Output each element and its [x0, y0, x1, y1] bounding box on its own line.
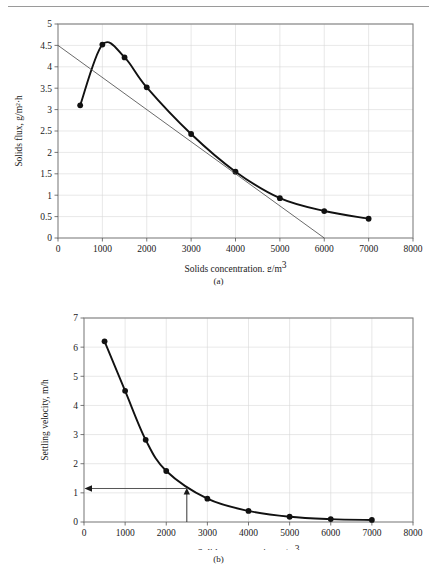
data-point-marker [204, 496, 210, 502]
y-tick-label: 3 [47, 105, 52, 115]
data-point-marker [99, 42, 105, 48]
y-tick-label: 4 [73, 401, 78, 411]
data-point-marker [102, 338, 108, 344]
y-tick-label: 0 [73, 517, 78, 527]
y-tick-label: 1.5 [40, 169, 52, 179]
x-tick-label: 3000 [182, 244, 201, 254]
figure-a-caption: (a) [0, 276, 437, 286]
x-tick-label: 2000 [157, 528, 176, 538]
data-point-marker [321, 208, 327, 214]
figure-b-caption: (b) [0, 554, 437, 564]
series-0 [77, 42, 371, 222]
y-axis: 00.511.522.533.544.55 [40, 19, 58, 243]
page-header-rule [8, 6, 429, 7]
y-tick-label: 1 [73, 488, 78, 498]
y-tick-label: 4 [47, 62, 52, 72]
data-point-marker [122, 54, 128, 60]
x-axis: 010002000300040005000600070008000 [82, 522, 423, 538]
y-tick-label: 3.5 [40, 84, 52, 94]
y-tick-label: 6 [73, 343, 78, 353]
x-tick-label: 7000 [359, 244, 378, 254]
data-point-marker [122, 388, 128, 394]
x-tick-label: 8000 [404, 528, 423, 538]
x-tick-label: 5000 [280, 528, 299, 538]
x-tick-label: 5000 [270, 244, 289, 254]
y-tick-label: 3 [73, 430, 78, 440]
x-tick-label: 3000 [198, 528, 217, 538]
grid-lines [58, 24, 413, 238]
x-tick-label: 1000 [116, 528, 135, 538]
x-tick-label: 7000 [362, 528, 381, 538]
figure-page: 00.511.522.533.544.550100020003000400050… [0, 0, 437, 577]
data-point-marker [143, 437, 149, 443]
x-tick-label: 0 [56, 244, 61, 254]
x-axis: 010002000300040005000600070008000 [56, 238, 423, 254]
data-point-marker [77, 102, 83, 108]
x-tick-label: 1000 [93, 244, 112, 254]
y-tick-label: 4.5 [40, 41, 52, 51]
y-tick-label: 1 [47, 191, 52, 201]
figure-a: 00.511.522.533.544.550100020003000400050… [0, 14, 437, 286]
y-tick-label: 2.5 [40, 126, 52, 136]
data-point-marker [366, 216, 372, 222]
x-axis-title-text: Solids concentration, g/m3 [197, 544, 299, 550]
y-tick-label: 2 [47, 148, 52, 158]
x-tick-label: 4000 [239, 528, 258, 538]
annotation-group [85, 485, 191, 522]
data-point-marker [287, 514, 293, 520]
y-tick-label: 5 [47, 19, 52, 29]
figure-b: 0123456701000200030004000500060007000800… [0, 300, 437, 572]
x-tick-label: 6000 [321, 528, 340, 538]
data-curve [105, 341, 372, 520]
y-tick-label: 0 [47, 233, 52, 243]
x-axis-title: Solids concentration, g/m3 [197, 544, 299, 550]
y-tick-label: 5 [73, 372, 78, 382]
x-tick-label: 4000 [226, 244, 245, 254]
series-0 [102, 338, 375, 522]
x-tick-label: 6000 [315, 244, 334, 254]
y-tick-label: 7 [73, 313, 78, 323]
data-point-marker [369, 517, 375, 523]
x-tick-label: 8000 [404, 244, 423, 254]
data-point-marker [163, 468, 169, 474]
y-axis-title-text: Settling velocity, m/h [40, 379, 50, 461]
y-axis: 01234567 [73, 313, 84, 527]
x-axis-title: Solids concentration, g/m3 [184, 260, 286, 272]
y-axis-title-text: Solids flux, g/m²·h [14, 95, 24, 167]
solids-flux-chart: 00.511.522.533.544.550100020003000400050… [0, 14, 437, 272]
y-tick-label: 2 [73, 459, 78, 469]
data-point-marker [246, 508, 252, 514]
data-point-marker [277, 195, 283, 201]
y-axis-title: Solids flux, g/m²·h [14, 95, 24, 167]
annotation-arrow-left [85, 485, 93, 491]
x-tick-label: 2000 [137, 244, 156, 254]
data-point-marker [144, 84, 150, 90]
x-axis-title-text: Solids concentration, g/m3 [184, 260, 286, 272]
y-tick-label: 0.5 [40, 212, 52, 222]
data-point-marker [188, 131, 194, 137]
data-curve [80, 42, 368, 219]
grid-lines [84, 318, 413, 522]
y-axis-title: Settling velocity, m/h [40, 379, 50, 461]
settling-velocity-chart: 0123456701000200030004000500060007000800… [0, 300, 437, 550]
x-tick-label: 0 [82, 528, 87, 538]
data-point-marker [328, 516, 334, 522]
